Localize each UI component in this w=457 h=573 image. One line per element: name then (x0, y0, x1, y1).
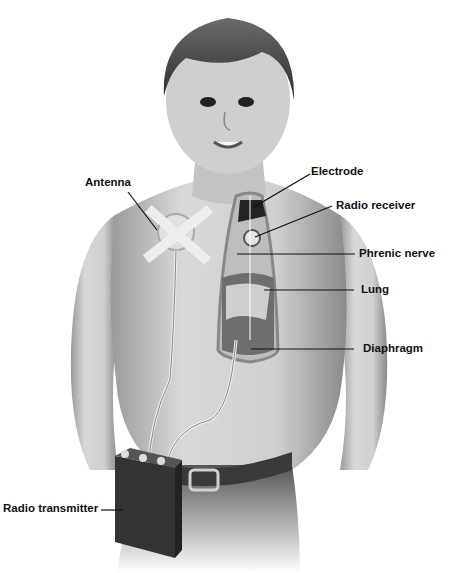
label-diaphragm: Diaphragm (363, 342, 423, 354)
label-radio-receiver: Radio receiver (336, 199, 415, 211)
label-phrenic-nerve: Phrenic nerve (359, 247, 435, 259)
head (164, 18, 294, 174)
diagram-canvas: Antenna Electrode Radio receiver Phrenic… (0, 0, 457, 573)
label-radio-transmitter: Radio transmitter (3, 502, 98, 514)
label-antenna: Antenna (85, 176, 131, 188)
radio-transmitter-device (115, 448, 182, 558)
label-electrode: Electrode (311, 165, 363, 177)
label-lung: Lung (361, 283, 389, 295)
